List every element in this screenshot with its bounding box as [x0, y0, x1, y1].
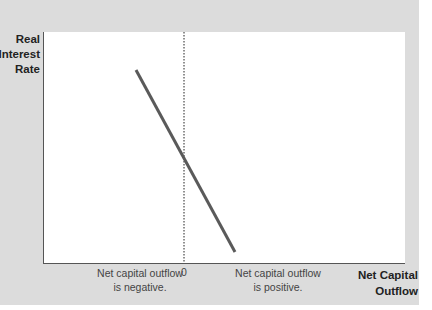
y-label-line: Interest [0, 47, 40, 62]
note-line: Net capital outflow [218, 266, 338, 280]
y-label-line: Real [0, 32, 40, 47]
y-axis-label: Real Interest Rate [0, 32, 40, 77]
note-line: is negative. [80, 280, 200, 294]
x-label-line: Outflow [358, 283, 418, 299]
positive-region-note: Net capital outflow is positive. [218, 266, 338, 294]
chart-lines [0, 0, 432, 310]
x-label-line: Net Capital [358, 267, 418, 283]
x-tick-zero: 0 [181, 266, 187, 278]
x-axis-label: Net Capital Outflow [358, 267, 418, 299]
nco-curve [136, 70, 235, 252]
note-line: is positive. [218, 280, 338, 294]
y-label-line: Rate [0, 62, 40, 77]
